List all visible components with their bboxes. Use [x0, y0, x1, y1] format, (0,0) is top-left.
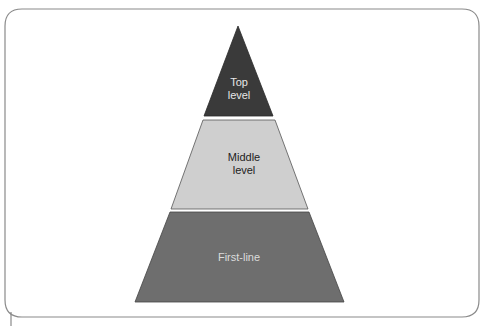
- label-top-level: Top level: [214, 76, 264, 102]
- label-middle-level: Middle level: [209, 151, 279, 177]
- pyramid-diagram: Top level Middle level First-line: [0, 0, 487, 326]
- label-first-line: First-line: [199, 251, 279, 264]
- pyramid-tier-top: [204, 26, 273, 116]
